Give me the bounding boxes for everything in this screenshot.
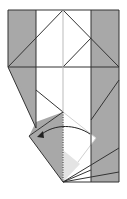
diagram-canvas [0,0,127,199]
diag-lower-left [36,90,63,112]
origami-diagram: Fold the lower-left flap across to the l… [0,0,127,199]
diag-inner-right [63,38,91,67]
